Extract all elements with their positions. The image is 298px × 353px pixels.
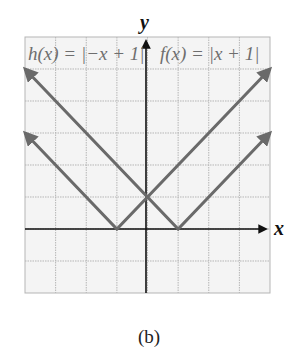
f-function-label: f(x) = |x + 1|: [160, 43, 259, 65]
x-axis-label: x: [273, 217, 284, 239]
h-function-label: h(x) = |−x + 1|: [28, 43, 144, 65]
y-axis-label: y: [138, 11, 149, 34]
figure-caption: (b): [0, 326, 298, 348]
graph-figure: h(x) = |−x + 1| f(x) = |x + 1| x y: [0, 0, 298, 353]
